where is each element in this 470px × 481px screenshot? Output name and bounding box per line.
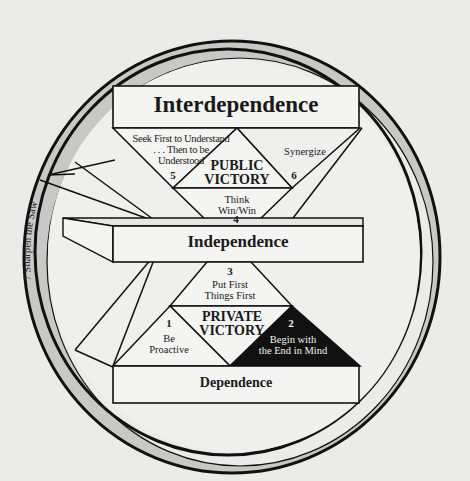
- seven-habits-diagram: 7 Sharpen the Saw Interdependence Indepe…: [0, 0, 470, 481]
- public-victory-line-2: VICTORY: [195, 173, 279, 187]
- habit-5-number: 5: [167, 170, 179, 182]
- habit-1-label: Be Proactive: [140, 333, 198, 355]
- habit-5-line-3: Understood: [131, 155, 231, 166]
- habit-1-number: 1: [163, 318, 175, 330]
- habit-3-line-1: Put First: [200, 279, 260, 290]
- level-independence: Independence: [113, 233, 363, 251]
- habit-1-line-2: Proactive: [140, 344, 198, 355]
- level-dependence: Dependence: [113, 376, 359, 391]
- private-victory-line-1: PRIVATE: [190, 310, 274, 324]
- habit-2-label: Begin with the End in Mind: [248, 334, 338, 356]
- habit-2-line-2: the End in Mind: [248, 345, 338, 356]
- habit-6-label: Synergize: [270, 146, 340, 157]
- habit-4-number: 4: [230, 214, 242, 226]
- habit-5-line-1: Seek First to Understand: [131, 133, 231, 144]
- level-interdependence: Interdependence: [113, 93, 359, 117]
- habit-3-line-2: Things First: [200, 290, 260, 301]
- habit-2-line-1: Begin with: [248, 334, 338, 345]
- habit-6-number: 6: [288, 170, 300, 182]
- habit-5-line-2: . . . Then to be: [131, 144, 231, 155]
- habit-5-label: Seek First to Understand . . . Then to b…: [131, 133, 231, 166]
- habit-4-line-1: Think: [210, 194, 264, 205]
- habit-1-line-1: Be: [140, 333, 198, 344]
- habit-2-number: 2: [285, 318, 297, 330]
- habit-3-number: 3: [224, 266, 236, 278]
- habit-3-label: Put First Things First: [200, 279, 260, 301]
